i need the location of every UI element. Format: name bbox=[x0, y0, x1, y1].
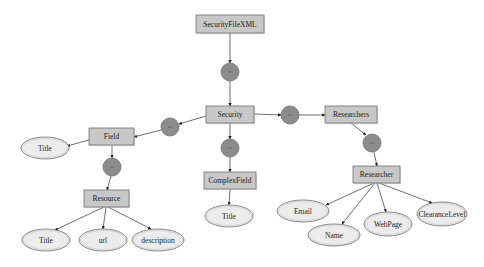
element-label: Resource bbox=[93, 194, 122, 203]
diagram-canvas: SecurityFileXMLSecurityFieldTitleResourc… bbox=[0, 0, 484, 267]
attribute-label: WebPage bbox=[374, 220, 403, 229]
edge-seq3-to-resource bbox=[107, 176, 111, 190]
nodes-layer: SecurityFileXMLSecurityFieldTitleResourc… bbox=[21, 15, 467, 251]
node-resource[interactable]: Resource bbox=[84, 190, 130, 208]
edge-field-to-title1 bbox=[67, 140, 89, 146]
element-label: Security bbox=[218, 110, 243, 119]
element-label: Field bbox=[104, 132, 120, 141]
attribute-label: Title bbox=[38, 144, 53, 153]
attribute-label: Email bbox=[294, 207, 312, 216]
node-field[interactable]: Field bbox=[89, 128, 135, 146]
node-complexfield[interactable]: ComplexField bbox=[204, 172, 257, 190]
edge-resource-to-title2 bbox=[55, 207, 104, 230]
node-clearancelevel[interactable]: ClearanceLevel bbox=[417, 202, 467, 226]
node-description[interactable]: description bbox=[132, 229, 184, 251]
sequence-compositor-seq1[interactable] bbox=[221, 63, 239, 81]
node-security[interactable]: Security bbox=[206, 106, 255, 124]
attribute-label: description bbox=[141, 236, 175, 245]
attribute-label: Name bbox=[325, 231, 344, 240]
edge-complexfield-to-title3 bbox=[229, 189, 230, 205]
node-name[interactable]: Name bbox=[308, 224, 360, 246]
node-researcher[interactable]: Researcher bbox=[353, 166, 401, 184]
element-label: Researchers bbox=[333, 110, 369, 119]
sequence-compositor-seq6[interactable] bbox=[363, 134, 381, 152]
attribute-label: Title bbox=[222, 212, 237, 221]
element-label: ComplexField bbox=[209, 176, 252, 185]
node-url[interactable]: url bbox=[79, 229, 127, 251]
edge-security-to-seq5 bbox=[254, 114, 281, 115]
element-label: Researcher bbox=[360, 170, 394, 179]
sequence-compositor-seq3[interactable] bbox=[103, 158, 121, 176]
edge-security-to-seq2 bbox=[179, 116, 206, 124]
node-securityfilexml[interactable]: SecurityFileXML bbox=[196, 15, 265, 34]
node-title2[interactable]: Title bbox=[22, 229, 70, 251]
edge-researchers-to-seq6 bbox=[351, 123, 366, 135]
edge-resource-to-url bbox=[103, 207, 106, 229]
edge-researcher-to-clearancelevel bbox=[379, 183, 432, 203]
edge-resource-to-description bbox=[108, 207, 151, 229]
sequence-compositor-seq2[interactable] bbox=[161, 118, 179, 136]
attribute-label: Title bbox=[39, 236, 54, 245]
attribute-label: url bbox=[99, 236, 107, 245]
node-title1[interactable]: Title bbox=[21, 137, 69, 159]
edge-researcher-to-email bbox=[326, 183, 374, 205]
attribute-label: ClearanceLevel bbox=[418, 210, 465, 219]
node-researchers[interactable]: Researchers bbox=[325, 106, 378, 124]
edge-researcher-to-webpage bbox=[377, 183, 386, 212]
sequence-compositor-seq4[interactable] bbox=[221, 139, 239, 157]
sequence-compositor-seq5[interactable] bbox=[281, 106, 299, 124]
edge-seq6-to-researcher bbox=[374, 152, 377, 166]
node-title3[interactable]: Title bbox=[205, 205, 253, 227]
node-email[interactable]: Email bbox=[277, 200, 329, 222]
element-label: SecurityFileXML bbox=[203, 20, 257, 29]
edge-seq2-to-field bbox=[134, 130, 161, 137]
schema-tree-diagram: SecurityFileXMLSecurityFieldTitleResourc… bbox=[0, 0, 484, 267]
node-webpage[interactable]: WebPage bbox=[364, 212, 412, 236]
